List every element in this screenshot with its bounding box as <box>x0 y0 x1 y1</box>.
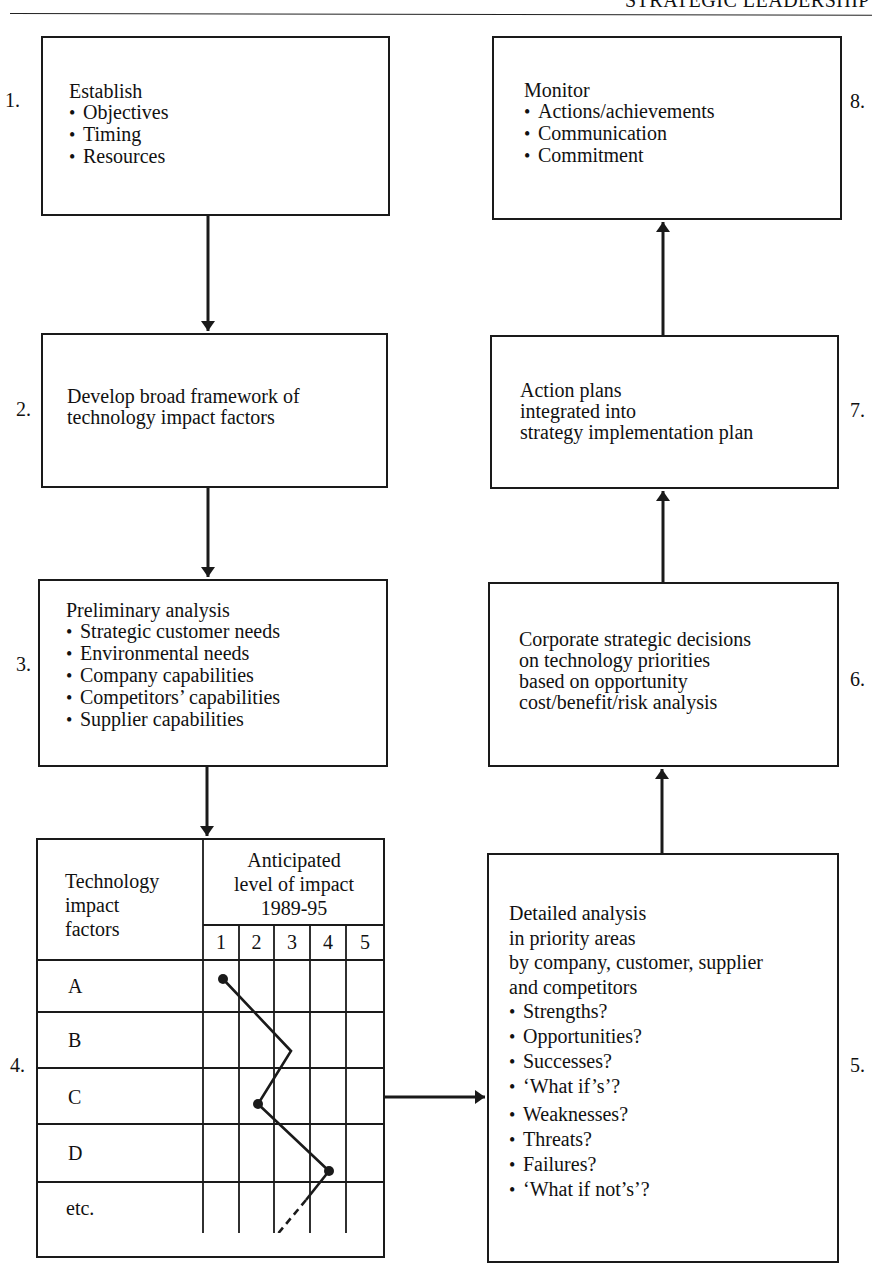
step-7-line: integrated into <box>520 401 753 422</box>
step-6-line: on technology priorities <box>519 650 751 671</box>
step-7-line: Action plans <box>520 380 753 401</box>
bullet-item: Strengths? <box>509 999 763 1024</box>
step-7-box: Action plans integrated into strategy im… <box>490 335 839 489</box>
bullet-item: Communication <box>524 123 715 145</box>
step-3-title: Preliminary analysis <box>66 600 280 621</box>
bullet-item: Actions/achievements <box>524 101 715 123</box>
table-right-header: Anticipated level of impact 1989-95 <box>204 848 384 920</box>
step-2-line: Develop broad framework of <box>67 386 300 407</box>
step-2-box: Develop broad framework of technology im… <box>41 333 388 488</box>
step-1-box: Establish Objectives Timing Resources <box>41 36 390 216</box>
bullet-item: ‘What if not’s’? <box>509 1177 763 1202</box>
step-number-2: 2. <box>16 398 31 421</box>
step-number-5: 5. <box>850 1054 865 1077</box>
bullet-item: Successes? <box>509 1049 763 1074</box>
table-left-header: Technology impact factors <box>65 869 159 941</box>
step-5-line: by company, customer, supplier <box>509 950 763 975</box>
row-label-d: D <box>68 1143 82 1164</box>
bullet-item: Timing <box>69 124 169 146</box>
step-6-line: Corporate strategic decisions <box>519 629 751 650</box>
step-1-title: Establish <box>69 81 169 102</box>
row-label-c: C <box>68 1087 81 1108</box>
row-label-b: B <box>68 1030 81 1051</box>
level-label-5: 5 <box>346 932 384 953</box>
bullet-item: Threats? <box>509 1127 763 1152</box>
step-7-line: strategy implementation plan <box>520 422 753 443</box>
bullet-item: Environmental needs <box>66 643 280 665</box>
running-head: STRATEGIC LEADERSHIP <box>625 0 870 12</box>
bullet-item: ‘What if’s’? <box>509 1074 763 1099</box>
step-2-content: Develop broad framework of technology im… <box>67 386 300 428</box>
bullet-item: Failures? <box>509 1152 763 1177</box>
step-7-content: Action plans integrated into strategy im… <box>520 380 753 443</box>
step-3-bullets: Strategic customer needs Environmental n… <box>66 621 280 731</box>
bullet-item: Opportunities? <box>509 1024 763 1049</box>
step-6-line: cost/benefit/risk analysis <box>519 692 751 713</box>
step-8-content: Monitor Actions/achievements Communicati… <box>524 80 715 167</box>
bullet-item: Commitment <box>524 145 715 167</box>
step-5-line: in priority areas <box>509 926 763 951</box>
step-8-box: Monitor Actions/achievements Communicati… <box>492 36 842 220</box>
step-5-line: and competitors <box>509 975 763 1000</box>
level-label-2: 2 <box>239 932 274 953</box>
step-6-line: based on opportunity <box>519 671 751 692</box>
step-3-content: Preliminary analysis Strategic customer … <box>66 600 280 731</box>
step-5-positive-bullets: Strengths? Opportunities? Successes? ‘Wh… <box>509 999 763 1099</box>
step-number-4: 4. <box>10 1054 25 1077</box>
step-5-line: Detailed analysis <box>509 901 763 926</box>
step-5-negative-bullets: Weaknesses? Threats? Failures? ‘What if … <box>509 1102 763 1202</box>
step-1-bullets: Objectives Timing Resources <box>69 102 169 168</box>
bullet-item: Weaknesses? <box>509 1102 763 1127</box>
step-5-box: Detailed analysis in priority areas by c… <box>487 853 839 1263</box>
step-number-3: 3. <box>16 653 31 676</box>
header-rule <box>10 13 872 16</box>
bullet-item: Competitors’ capabilities <box>66 687 280 709</box>
step-5-content: Detailed analysis in priority areas by c… <box>509 901 763 1202</box>
level-label-4: 4 <box>310 932 346 953</box>
level-label-1: 1 <box>203 932 239 953</box>
step-3-box: Preliminary analysis Strategic customer … <box>38 579 388 767</box>
step-6-content: Corporate strategic decisions on technol… <box>519 629 751 713</box>
step-8-bullets: Actions/achievements Communication Commi… <box>524 101 715 167</box>
row-label-a: A <box>68 976 82 997</box>
bullet-item: Company capabilities <box>66 665 280 687</box>
step-number-1: 1. <box>5 89 20 112</box>
bullet-item: Resources <box>69 146 169 168</box>
step-6-box: Corporate strategic decisions on technol… <box>488 582 839 767</box>
level-label-3: 3 <box>274 932 310 953</box>
step-8-title: Monitor <box>524 80 715 101</box>
step-1-content: Establish Objectives Timing Resources <box>69 81 169 168</box>
bullet-item: Objectives <box>69 102 169 124</box>
step-number-7: 7. <box>850 399 865 422</box>
step-number-8: 8. <box>850 90 865 113</box>
row-label-etc: etc. <box>66 1198 94 1219</box>
step-2-line: technology impact factors <box>67 407 300 428</box>
bullet-item: Supplier capabilities <box>66 709 280 731</box>
bullet-item: Strategic customer needs <box>66 621 280 643</box>
step-number-6: 6. <box>850 668 865 691</box>
